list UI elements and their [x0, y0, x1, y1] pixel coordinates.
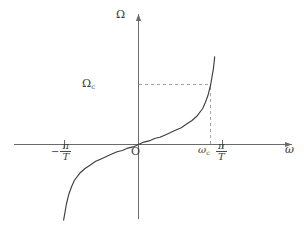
- origin-label: O: [131, 146, 140, 157]
- y-axis-label: Ω: [116, 9, 125, 20]
- minus-sign: −: [51, 147, 60, 157]
- x-axis-tick-label-pi-over-T: πT: [216, 141, 227, 162]
- Omega-symbol: Ω: [82, 77, 91, 90]
- fraction-numerator-pi: π: [60, 141, 71, 151]
- plot-canvas: [0, 0, 304, 233]
- fraction-pi-over-T-positive: πT: [216, 141, 227, 162]
- omega-symbol: ω: [198, 144, 206, 155]
- x-axis-tick-label-omega-c: ωc: [198, 145, 210, 156]
- y-axis-arrowhead: [136, 14, 141, 21]
- fraction-pi-over-T: πT: [60, 141, 71, 162]
- Omega-subscript-c: c: [91, 83, 95, 91]
- y-axis-tick-label-Omega-c: Ωc: [82, 78, 95, 91]
- fraction-denominator-T: T: [216, 151, 227, 162]
- x-axis-tick-label-neg-pi-over-T: −πT: [51, 141, 71, 162]
- fraction-denominator-T: T: [60, 151, 71, 162]
- fraction-numerator-pi: π: [216, 141, 227, 151]
- omega-subscript-c: c: [206, 149, 209, 156]
- frequency-warping-figure: Ω Ωc O −πT ωc πT ω: [0, 0, 304, 233]
- x-axis-label: ω: [285, 144, 294, 155]
